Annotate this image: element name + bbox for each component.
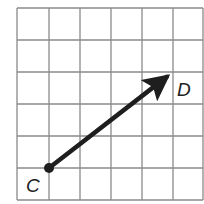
grid (17, 8, 203, 200)
label-c: C (26, 175, 40, 196)
label-d: D (177, 79, 191, 100)
grid-vector-diagram: C D (0, 0, 204, 204)
point-c-dot (44, 163, 54, 173)
vector-cd-arrow (49, 77, 167, 168)
